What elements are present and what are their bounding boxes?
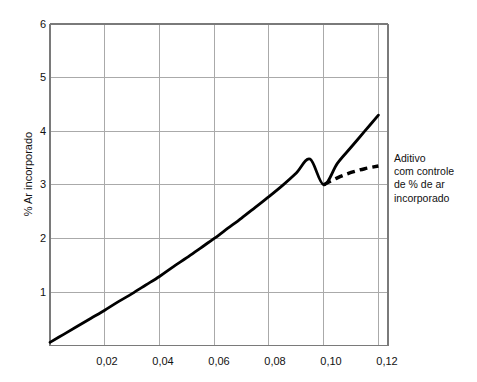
gridlines (50, 24, 388, 346)
annotation-line-3: de % de ar (394, 178, 476, 191)
annotation-line-2: com controle (394, 165, 476, 178)
dashed-series-annotation: Aditivo com controle de % de ar incorpor… (394, 152, 476, 205)
air-entrainment-chart: % Ar incorporado 6 5 4 3 2 1 0,02 0,04 0… (0, 0, 477, 382)
annotation-line-1: Aditivo (394, 152, 476, 165)
annotation-line-4: incorporado (394, 192, 476, 205)
